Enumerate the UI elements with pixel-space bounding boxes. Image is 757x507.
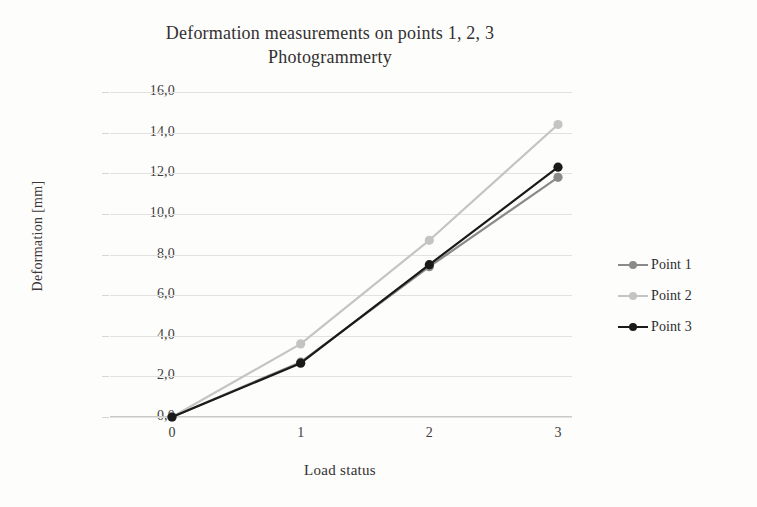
series-1 xyxy=(167,173,562,422)
series-layer xyxy=(110,92,572,417)
data-point-marker xyxy=(425,236,434,245)
data-point-marker xyxy=(296,339,305,348)
legend-label: Point 1 xyxy=(651,257,692,273)
deformation-line-chart: Deformation measurements on points 1, 2,… xyxy=(0,0,757,507)
y-tick-mark xyxy=(102,255,109,256)
legend-swatch-icon xyxy=(618,321,648,333)
series-2 xyxy=(167,120,562,422)
y-tick-mark xyxy=(102,336,109,337)
series-line xyxy=(172,125,558,418)
x-tick-label: 2 xyxy=(409,425,449,441)
y-tick-mark xyxy=(102,376,109,377)
x-tick-label: 0 xyxy=(152,425,192,441)
y-tick-mark xyxy=(102,295,109,296)
chart-title-line-2: Photogrammerty xyxy=(120,46,540,70)
gridline xyxy=(110,417,572,418)
y-tick-mark xyxy=(102,214,109,215)
data-point-marker xyxy=(553,173,562,182)
data-point-marker xyxy=(425,260,434,269)
x-axis-title: Load status xyxy=(110,462,570,479)
legend-swatch-icon xyxy=(618,290,648,302)
y-tick-mark xyxy=(102,417,109,418)
data-point-marker xyxy=(553,120,562,129)
data-point-marker xyxy=(296,359,305,368)
chart-legend: Point 1Point 2Point 3 xyxy=(618,249,692,342)
legend-item-1[interactable]: Point 1 xyxy=(618,249,692,280)
y-axis-title: Deformation [mm] xyxy=(30,136,46,336)
y-tick-mark xyxy=(102,92,109,93)
x-tick-label: 3 xyxy=(538,425,578,441)
data-point-marker xyxy=(167,412,176,421)
plot-area xyxy=(110,92,572,417)
series-line xyxy=(172,177,558,417)
y-tick-mark xyxy=(102,173,109,174)
y-tick-mark xyxy=(102,133,109,134)
legend-label: Point 3 xyxy=(651,319,692,335)
data-point-marker xyxy=(553,163,562,172)
legend-item-3[interactable]: Point 3 xyxy=(618,311,692,342)
chart-title-line-1: Deformation measurements on points 1, 2,… xyxy=(120,22,540,46)
legend-item-2[interactable]: Point 2 xyxy=(618,280,692,311)
legend-label: Point 2 xyxy=(651,288,692,304)
legend-swatch-icon xyxy=(618,259,648,271)
chart-title: Deformation measurements on points 1, 2,… xyxy=(120,22,540,70)
x-tick-label: 1 xyxy=(281,425,321,441)
